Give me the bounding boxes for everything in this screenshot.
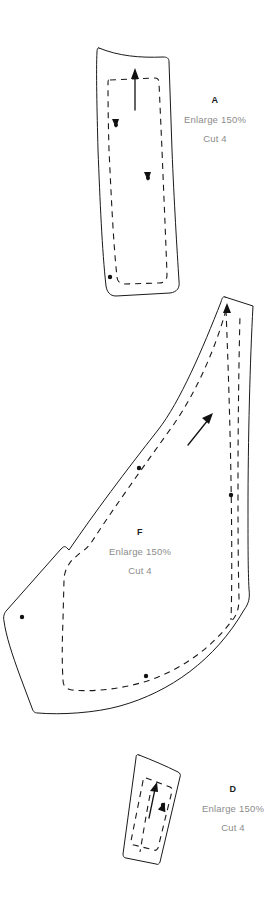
cut-line-a xyxy=(97,48,180,296)
piece-id-a: A xyxy=(167,96,263,105)
piece-label-a: A Enlarge 150% Cut 4 xyxy=(167,96,263,143)
notch-arrow-a-2 xyxy=(144,172,151,181)
piece-label-f: F Enlarge 150% Cut 4 xyxy=(92,528,188,575)
piece-enlarge-a: Enlarge 150% xyxy=(167,115,263,125)
pattern-piece-f xyxy=(4,297,253,714)
seam-line-f xyxy=(62,310,240,691)
piece-enlarge-d: Enlarge 150% xyxy=(186,804,280,814)
pattern-piece-d xyxy=(123,755,180,865)
notch-dot-f-2 xyxy=(229,493,233,497)
notch-dot-f-1 xyxy=(137,466,141,470)
notch-dot-f-3 xyxy=(20,615,24,619)
piece-cut-f: Cut 4 xyxy=(92,566,188,576)
notch-arrow-d-1 xyxy=(158,801,169,812)
seam-line-a xyxy=(108,78,167,284)
grainline-arrow-a xyxy=(131,68,139,110)
notch-dot-a-3 xyxy=(108,275,112,279)
seam-line-d-inner xyxy=(140,795,150,852)
notch-dot-f-4 xyxy=(144,674,148,678)
piece-label-d: D Enlarge 150% Cut 4 xyxy=(186,785,280,832)
piece-enlarge-f: Enlarge 150% xyxy=(92,547,188,557)
piece-id-f: F xyxy=(92,528,188,537)
seam-line-d xyxy=(131,778,172,851)
cut-line-f xyxy=(4,297,253,714)
pattern-piece-a xyxy=(97,48,180,296)
cut-line-d xyxy=(123,755,180,865)
notch-arrow-f-top xyxy=(223,303,231,313)
grainline-arrow-d xyxy=(149,782,158,818)
seam-line-f-center xyxy=(226,310,232,620)
pattern-sheet: A Enlarge 150% Cut 4 F Enlarge 150% Cut … xyxy=(0,0,280,921)
piece-cut-d: Cut 4 xyxy=(186,823,280,833)
notch-arrow-a-1 xyxy=(112,119,119,128)
piece-cut-a: Cut 4 xyxy=(167,134,263,144)
grainline-arrow-f xyxy=(188,413,213,445)
piece-id-d: D xyxy=(186,785,280,794)
